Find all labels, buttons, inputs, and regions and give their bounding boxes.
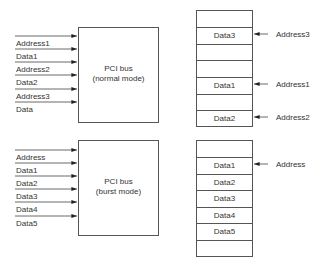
memory-burst: Data1 Data2 Data3 Data4 Data5 [196, 140, 253, 257]
burst-input-label: Data4 [16, 205, 37, 214]
normal-input-label: Data [16, 105, 33, 114]
memory-cell [197, 94, 252, 110]
burst-input-label: Data5 [16, 219, 37, 228]
burst-input-label: Address [16, 153, 45, 162]
memory-cell [197, 10, 252, 27]
memory-cell [197, 44, 252, 60]
burst-input-label: Data3 [16, 192, 37, 201]
normal-input-label: Address1 [16, 39, 50, 48]
memory-pointer-arrows [254, 34, 268, 164]
memory-cell: Data1 [197, 157, 252, 174]
memory-cell: Data5 [197, 223, 252, 240]
pci-bus-burst-mode: (burst mode) [79, 187, 158, 197]
pci-bus-burst-title: PCI bus [79, 177, 158, 187]
normal-input-label: Data1 [16, 52, 37, 61]
normal-input-label: Data2 [16, 78, 37, 87]
memory-cell: Data4 [197, 207, 252, 223]
memory-cell: Data2 [197, 174, 252, 190]
burst-input-label: Data1 [16, 166, 37, 175]
memory-cell [197, 60, 252, 77]
normal-input-label: Address2 [16, 65, 50, 74]
pointer-label-address: Address [276, 160, 305, 169]
pci-bus-normal-mode: (normal mode) [79, 74, 158, 84]
pci-bus-normal-box: PCI bus (normal mode) [78, 27, 159, 123]
pci-bus-normal-title: PCI bus [79, 64, 158, 74]
pointer-label-address2: Address2 [276, 113, 310, 122]
memory-cell: Data3 [197, 27, 252, 44]
burst-input-label: Data2 [16, 179, 37, 188]
memory-normal: Data3 Data1 Data2 [196, 10, 253, 127]
memory-cell: Data1 [197, 77, 252, 94]
memory-cell: Data3 [197, 190, 252, 207]
memory-cell: Data2 [197, 110, 252, 127]
pointer-label-address3: Address3 [276, 30, 310, 39]
memory-cell [197, 140, 252, 157]
pointer-label-address1: Address1 [276, 80, 310, 89]
memory-cell [197, 240, 252, 257]
normal-input-label: Address3 [16, 92, 50, 101]
pci-bus-burst-box: PCI bus (burst mode) [78, 140, 159, 236]
